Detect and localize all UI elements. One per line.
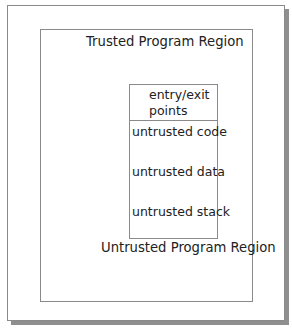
entry-exit-points-cell: entry/exit points [130,85,217,121]
entry-exit-label-line2: points [149,102,187,119]
untrusted-stack-label: untrusted stack [132,204,230,219]
untrusted-code-label: untrusted code [132,124,227,139]
entry-exit-label-line1: entry/exit [149,86,210,103]
untrusted-data-label: untrusted data [132,164,225,179]
trusted-region-label: Trusted Program Region [86,34,244,49]
untrusted-region-label: Untrusted Program Region [101,240,276,255]
untrusted-region-box: entry/exit points untrusted code untrust… [129,84,218,239]
